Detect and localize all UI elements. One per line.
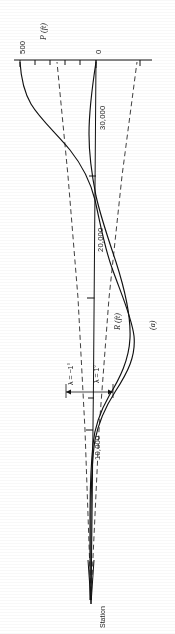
p-tick-label-0: 0: [94, 50, 103, 54]
survey-uncertainty-chart: P (ft) 500 0 30,000 20,000 10,000 R (ft)…: [0, 0, 175, 634]
envelope-line-negative: [57, 62, 91, 600]
lambda-dimension: [66, 384, 113, 398]
p-tick-label-500: 500: [18, 41, 27, 54]
depth-label-10000: 10,000: [93, 436, 102, 460]
survey-curve-1: [20, 62, 134, 600]
p-axis-group: [14, 60, 152, 68]
r-axis-label: R (ft): [113, 313, 122, 331]
uncertainty-envelope: [57, 62, 137, 600]
lambda-arrow-left: [66, 390, 71, 395]
depth-label-30000: 30,000: [98, 106, 107, 130]
panel-label: (a): [148, 320, 157, 330]
r-axis-line: [91, 60, 96, 600]
p-axis-label: P (ft): [39, 23, 48, 41]
figure-canvas: P (ft) 500 0 30,000 20,000 10,000 R (ft)…: [0, 0, 175, 634]
lambda-positive-label: λ = 1°: [93, 365, 100, 383]
lambda-negative-label: λ = −1°: [67, 363, 74, 385]
station-label: Station: [99, 606, 106, 628]
survey-curves: [20, 62, 134, 600]
depth-label-20000: 20,000: [96, 228, 105, 252]
